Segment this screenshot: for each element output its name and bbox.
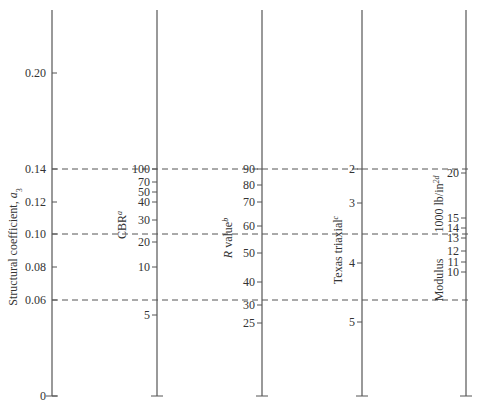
axis-label-structural-coefficient: Structural coefficient, a3 bbox=[6, 188, 24, 305]
tick-label: 0.14 bbox=[25, 162, 46, 176]
tick-label: 80 bbox=[243, 178, 255, 192]
tick-label: 10 bbox=[138, 260, 150, 274]
tick-label: 10 bbox=[447, 265, 459, 279]
tick-label: 0 bbox=[40, 389, 46, 403]
tick-label: 3 bbox=[349, 196, 355, 210]
nomograph: 00.060.080.100.120.140.20100705040302010… bbox=[0, 0, 479, 409]
tick-label: 0.20 bbox=[25, 66, 46, 80]
tick-label: 30 bbox=[138, 213, 150, 227]
axis-label-modulus: Modulus bbox=[432, 258, 446, 301]
tick-label: 5 bbox=[349, 315, 355, 329]
tick-label: 30 bbox=[243, 298, 255, 312]
axis-label-r-value: R valueb bbox=[221, 218, 236, 259]
tick-label: 0.12 bbox=[25, 195, 46, 209]
axis-label-cbr: CBRa bbox=[115, 211, 130, 239]
tick-label: 40 bbox=[138, 195, 150, 209]
tick-label: 70 bbox=[243, 195, 255, 209]
tick-label: 25 bbox=[243, 316, 255, 330]
tick-label: 100 bbox=[132, 162, 150, 176]
tick-label: 20 bbox=[447, 166, 459, 180]
tick-label: 0.06 bbox=[25, 293, 46, 307]
tick-label: 2 bbox=[349, 162, 355, 176]
tick-label: 13 bbox=[447, 231, 459, 245]
tick-label: 50 bbox=[243, 246, 255, 260]
tick-label: 5 bbox=[144, 308, 150, 322]
tick-label: 0.10 bbox=[25, 227, 46, 241]
tick-label: 40 bbox=[243, 275, 255, 289]
axis-label-modulus-units: 1000 lb/in2d bbox=[432, 174, 447, 232]
tick-label: 90 bbox=[243, 162, 255, 176]
tick-label: 20 bbox=[138, 235, 150, 249]
axis-label-texas-triaxial: Texas triaxialc bbox=[331, 215, 346, 284]
tick-label: 0.08 bbox=[25, 260, 46, 274]
tick-label: 60 bbox=[243, 219, 255, 233]
tick-label: 4 bbox=[349, 256, 355, 270]
